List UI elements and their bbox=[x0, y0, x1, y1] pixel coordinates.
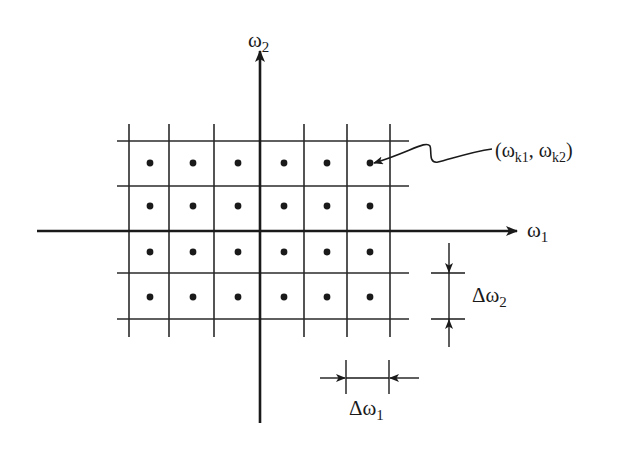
sample-point bbox=[147, 294, 154, 301]
sample-point bbox=[367, 249, 374, 256]
point-coordinate-label: (ωk1, ωk2) bbox=[495, 139, 573, 165]
sample-point bbox=[367, 294, 374, 301]
delta-omega2-label: Δω2 bbox=[472, 283, 507, 310]
sample-point bbox=[147, 160, 154, 167]
sample-point bbox=[235, 294, 242, 301]
sample-point bbox=[147, 203, 154, 210]
point-leader-curve bbox=[374, 144, 492, 163]
sampling-grid-diagram: ω2 ω1 (ωk1, ωk2) Δω2 Δω1 bbox=[0, 0, 619, 450]
sample-point bbox=[190, 203, 197, 210]
omega1-axis-label: ω1 bbox=[527, 218, 548, 245]
sample-point bbox=[281, 294, 288, 301]
sample-point bbox=[281, 203, 288, 210]
sample-point bbox=[281, 249, 288, 256]
sample-point bbox=[235, 203, 242, 210]
sample-point bbox=[367, 160, 374, 167]
sample-point bbox=[324, 249, 331, 256]
delta-omega2-dimension bbox=[431, 243, 465, 347]
sample-point bbox=[190, 160, 197, 167]
sample-point bbox=[190, 249, 197, 256]
sample-point bbox=[281, 160, 288, 167]
sample-point bbox=[324, 294, 331, 301]
omega2-axis-label: ω2 bbox=[248, 28, 269, 55]
sample-point bbox=[235, 160, 242, 167]
sample-point bbox=[147, 249, 154, 256]
delta-omega1-label: Δω1 bbox=[349, 396, 384, 423]
sample-point bbox=[324, 203, 331, 210]
sample-point bbox=[324, 160, 331, 167]
delta-omega1-dimension bbox=[320, 360, 419, 394]
sample-point bbox=[235, 249, 242, 256]
sample-point bbox=[367, 203, 374, 210]
sample-point bbox=[190, 294, 197, 301]
